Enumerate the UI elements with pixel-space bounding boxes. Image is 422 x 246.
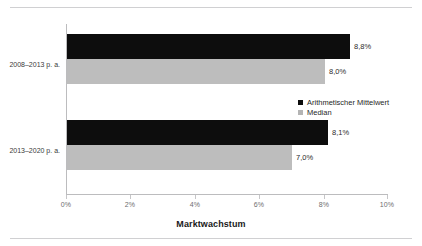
xtick-mark-6 (259, 195, 260, 199)
bar-median-group-1 (67, 59, 325, 84)
legend-label-mean: Arithmetischer Mittelwert (307, 99, 389, 107)
bar-mean-group-1 (67, 34, 350, 59)
chart-legend: Arithmetischer Mittelwert Median (298, 99, 389, 118)
top-divider (10, 7, 412, 8)
bar-label-mean-group-1: 8,8% (354, 42, 371, 51)
xtick-label-2: 2% (125, 201, 136, 208)
x-axis-title: Marktwachstum (0, 219, 422, 229)
gray-square-icon (298, 110, 303, 115)
xtick-label-6: 6% (254, 201, 265, 208)
xtick-label-4: 4% (190, 201, 201, 208)
ytick-label-group-2: 2013–2020 p. a. (8, 147, 60, 154)
xtick-mark-2 (130, 195, 131, 199)
xtick-mark-0 (66, 195, 67, 199)
xtick-label-0: 0% (61, 201, 72, 208)
bar-label-median-group-2: 7,0% (296, 153, 313, 162)
xtick-label-10: 10% (380, 201, 395, 208)
chart-figure: 2008–2013 p. a. 2013–2020 p. a. 0% 2% 4%… (0, 0, 422, 246)
bottom-divider (10, 238, 412, 239)
legend-item-mean: Arithmetischer Mittelwert (298, 99, 389, 107)
xtick-mark-4 (195, 195, 196, 199)
bar-label-mean-group-2: 8,1% (332, 128, 349, 137)
xtick-mark-8 (324, 195, 325, 199)
bar-label-median-group-1: 8,0% (329, 67, 346, 76)
ytick-label-group-1: 2008–2013 p. a. (8, 61, 60, 68)
legend-label-median: Median (307, 109, 332, 117)
legend-item-median: Median (298, 109, 389, 117)
bar-mean-group-2 (67, 120, 328, 145)
bar-median-group-2 (67, 145, 292, 170)
x-axis-line (66, 194, 388, 195)
xtick-mark-10 (387, 195, 388, 199)
black-square-icon (298, 100, 303, 105)
xtick-label-8: 8% (319, 201, 330, 208)
